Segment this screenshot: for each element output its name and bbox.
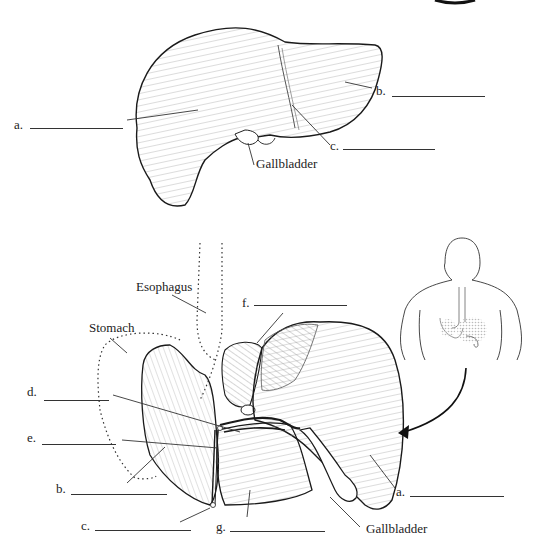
label-stomach: Stomach: [89, 321, 135, 335]
bottom-label-e: e.: [27, 431, 36, 445]
top-blank-c[interactable]: [343, 149, 435, 150]
top-liver-illustration: [127, 28, 382, 206]
bottom-label-gallbladder: Gallbladder: [366, 522, 427, 536]
bottom-blank-a[interactable]: [410, 496, 504, 497]
top-label-b: b.: [376, 84, 386, 98]
bottom-label-b: b.: [56, 482, 66, 496]
header-arc-fragment: [435, 0, 475, 3]
top-blank-a[interactable]: [30, 128, 123, 129]
bottom-blank-f[interactable]: [254, 305, 347, 306]
bottom-blank-e[interactable]: [42, 444, 116, 445]
top-label-c: c.: [330, 139, 339, 153]
label-esophagus: Esophagus: [136, 280, 192, 294]
top-blank-b[interactable]: [392, 96, 485, 97]
bottom-label-d: d.: [27, 385, 37, 399]
top-label-a: a.: [14, 118, 23, 132]
liver-diagram-art: [0, 0, 535, 539]
bottom-label-a: a.: [396, 485, 405, 499]
inset-torso-illustration: [400, 238, 521, 360]
bottom-blank-c[interactable]: [95, 530, 191, 531]
arrow-to-enlarged-view: [404, 368, 466, 432]
bottom-blank-d[interactable]: [44, 400, 109, 401]
bottom-label-f: f.: [242, 296, 250, 310]
bottom-blank-g[interactable]: [230, 531, 325, 532]
top-label-gallbladder: Gallbladder: [256, 157, 317, 171]
bottom-label-g: g.: [216, 520, 226, 534]
bottom-blank-b[interactable]: [71, 494, 167, 495]
bottom-label-c: c.: [81, 519, 90, 533]
